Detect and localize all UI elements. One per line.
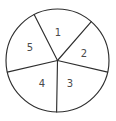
sector-label-1: 1 [55,27,61,38]
sector-label-4: 4 [39,78,45,89]
sector-label-5: 5 [27,42,33,53]
pie-chart-svg: 12345 [0,0,116,121]
sector-label-3: 3 [67,78,73,89]
sector-label-2: 2 [81,48,87,59]
pie-figure: 12345 [0,0,116,121]
